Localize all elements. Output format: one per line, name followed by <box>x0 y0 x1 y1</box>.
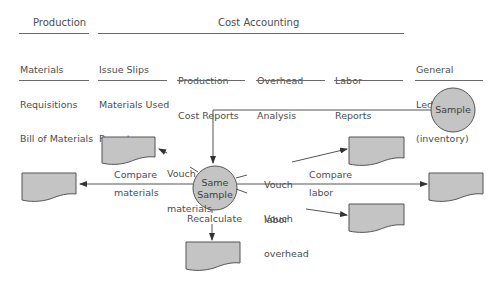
document-recalculate <box>186 242 240 270</box>
edge-label-compare-labor-bottom: labor <box>309 187 333 199</box>
edge-label-vouch-overhead: Vouch overhead <box>264 190 309 271</box>
edge-label-compare-materials-top: Compare <box>114 169 157 181</box>
edge-label-recalculate: Recalculate <box>187 213 242 225</box>
edge-label-line: Vouch <box>264 213 309 225</box>
vouch-materials-arrow <box>159 149 167 153</box>
vouch-labor-line <box>236 175 247 178</box>
document-vouch-overhead <box>349 204 404 232</box>
edge-label-compare-labor-top: Compare <box>309 169 352 181</box>
edge-label-line: Vouch <box>264 179 293 191</box>
edge-label-line: overhead <box>264 248 309 260</box>
document-vouch-materials <box>102 137 155 164</box>
document-vouch-labor <box>349 137 404 165</box>
vouch-overhead-line <box>236 189 247 193</box>
edge-label-compare-materials-bottom: materials <box>114 187 159 199</box>
document-compare-materials <box>22 173 76 201</box>
sample-node-label: Sample <box>431 104 475 116</box>
edge-label-line: Vouch <box>167 168 212 180</box>
audit-flow-diagram <box>0 0 501 284</box>
vouch-overhead-arrow <box>306 209 347 215</box>
document-compare-labor <box>429 173 483 201</box>
vouch-labor-arrow <box>292 149 347 162</box>
